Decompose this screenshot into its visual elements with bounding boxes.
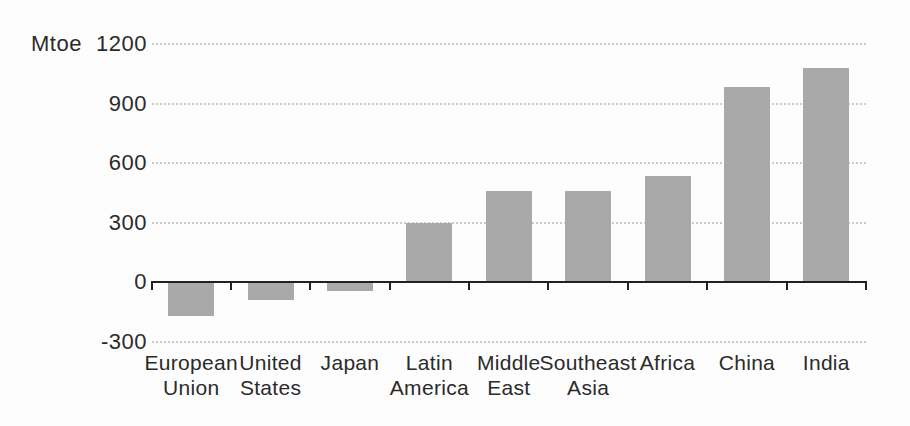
x-category-label-india: India	[761, 350, 891, 375]
y-tick-label-1200: 1200	[37, 31, 147, 57]
x-axis-line	[152, 281, 867, 284]
bar-india	[803, 68, 849, 283]
bar-africa	[645, 176, 691, 282]
gridline-1200	[152, 43, 867, 45]
x-category-label-line: States	[206, 375, 336, 400]
y-tick-label-0: 0	[37, 269, 147, 295]
bar-china	[724, 87, 770, 283]
y-tick-label-600: 600	[37, 150, 147, 176]
x-category-label-line: India	[761, 350, 891, 375]
x-axis-tick	[151, 281, 153, 290]
bar-southeast-asia	[565, 191, 611, 282]
x-axis-tick	[389, 281, 391, 290]
y-tick-label-900: 900	[37, 91, 147, 117]
bar-latin-america	[406, 223, 452, 283]
x-axis-tick	[786, 281, 788, 290]
bar-middle-east	[486, 191, 532, 282]
x-axis-tick	[547, 281, 549, 290]
x-axis-tick	[865, 281, 867, 290]
bar-european-union	[168, 282, 214, 316]
x-axis-tick	[706, 281, 708, 290]
y-tick-label-300: 300	[37, 210, 147, 236]
bar-united-states	[248, 282, 294, 300]
bar-chart: Mtoe 12009006003000-300 EuropeanUnionUni…	[0, 0, 910, 426]
x-axis-tick	[309, 281, 311, 290]
x-axis-tick	[627, 281, 629, 290]
gridline--300	[152, 341, 867, 343]
x-category-label-line: Asia	[523, 375, 653, 400]
x-axis-tick	[230, 281, 232, 290]
x-axis-tick	[468, 281, 470, 290]
bar-japan	[327, 282, 373, 291]
